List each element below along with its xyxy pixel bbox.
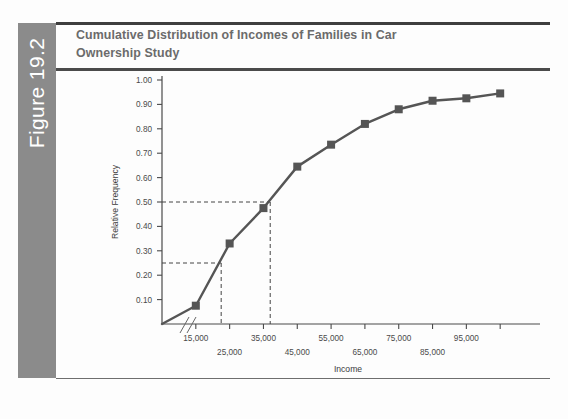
y-tick-label: 0.50 (136, 198, 152, 207)
y-tick-label: 1.00 (136, 76, 152, 85)
data-point-marker (462, 94, 470, 102)
x-tick-label: 75,000 (386, 334, 411, 343)
footer-rule (56, 378, 550, 379)
y-tick-label: 0.80 (136, 125, 152, 134)
data-point-marker (226, 239, 234, 247)
data-point-marker (496, 89, 504, 97)
x-tick-label: 65,000 (352, 348, 377, 357)
x-tick-label: 85,000 (420, 348, 445, 357)
header-rule-top (56, 22, 550, 25)
data-point-marker (327, 141, 335, 149)
y-axis-ticks (157, 80, 162, 300)
data-point-marker (192, 302, 200, 310)
header-rule-bottom (56, 68, 550, 71)
figure-number-tab: Figure 19.2 (18, 23, 56, 378)
figure-number-label: Figure 19.2 (25, 38, 49, 149)
y-tick-label: 0.40 (136, 222, 152, 231)
x-axis-title: Income (334, 364, 362, 374)
y-axis-title: Relative Frequency (110, 164, 120, 239)
x-tick-label: 35,000 (251, 334, 276, 343)
y-tick-label: 0.30 (136, 247, 152, 256)
cumulative-distribution-chart: 0.100.200.300.400.500.600.700.800.901.00… (56, 72, 550, 376)
y-tick-label: 0.70 (136, 149, 152, 158)
x-axis-tick-labels-lower: 25,00045,00065,00085,000 (217, 348, 445, 357)
y-tick-label: 0.10 (136, 296, 152, 305)
x-tick-label: 45,000 (285, 348, 310, 357)
data-point-marker (293, 163, 301, 171)
chart-title: Cumulative Distribution of Incomes of Fa… (76, 26, 436, 62)
data-point-marker (429, 97, 437, 105)
x-tick-label: 25,000 (217, 348, 242, 357)
y-tick-label: 0.90 (136, 100, 152, 109)
chart-plot-area: 0.100.200.300.400.500.600.700.800.901.00… (56, 72, 550, 376)
y-tick-label: 0.20 (136, 271, 152, 280)
data-point-marker (361, 120, 369, 128)
y-axis-tick-labels: 0.100.200.300.400.500.600.700.800.901.00 (136, 76, 152, 305)
x-tick-label: 95,000 (454, 334, 479, 343)
reference-lines (162, 202, 270, 324)
data-point-marker (259, 204, 267, 212)
series-line (162, 93, 500, 324)
x-tick-label: 55,000 (319, 334, 344, 343)
x-axis-ticks (196, 324, 500, 329)
series-markers (192, 89, 504, 309)
y-tick-label: 0.60 (136, 174, 152, 183)
axis-break-marks (180, 317, 196, 333)
figure-page: Figure 19.2 Cumulative Distribution of I… (0, 0, 568, 419)
x-axis-tick-labels-upper: 15,00035,00055,00075,00095,000 (183, 334, 479, 343)
figure-content: Cumulative Distribution of Incomes of Fa… (56, 20, 550, 384)
data-point-marker (395, 105, 403, 113)
x-tick-label: 15,000 (183, 334, 208, 343)
